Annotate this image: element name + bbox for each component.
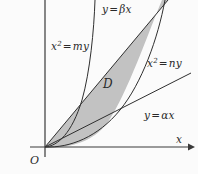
my-label-rhs: my [73, 40, 89, 52]
label-parabola-x2-eq-my: x2=my [51, 41, 89, 52]
label-axis-x: x [176, 134, 182, 145]
label-line-y-eq-alpha-x: y=αx [144, 110, 175, 121]
label-region-d: D [103, 78, 113, 90]
alpha-label-eq: = [150, 109, 161, 121]
ny-label-eq: = [158, 57, 169, 69]
beta-label-eq: = [108, 3, 119, 15]
my-label-eq: = [62, 40, 73, 52]
label-line-y-eq-beta-x: y=βx [102, 4, 132, 15]
alpha-label-var: x [168, 109, 174, 121]
beta-label-var: x [125, 3, 131, 15]
math-figure-region-d: y=βx x2=my x2=ny y=αx D O x [0, 0, 198, 174]
label-parabola-x2-eq-ny: x2=ny [147, 58, 182, 69]
label-origin: O [30, 155, 39, 166]
figure-canvas [0, 0, 198, 174]
ny-label-rhs: ny [169, 57, 182, 69]
line-y-eq-beta-x [45, 0, 168, 147]
x-axis-arrow-icon [188, 143, 195, 150]
